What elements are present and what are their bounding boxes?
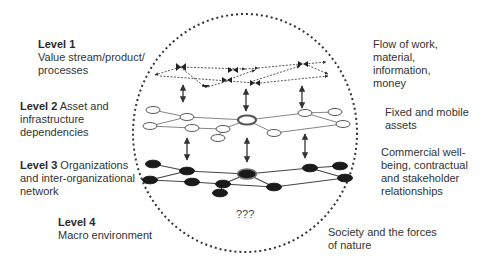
level-1-flow-network (155, 62, 328, 87)
level-2-3-connectors (187, 134, 305, 162)
level-3-nodes (143, 160, 353, 197)
level-1-nodes (176, 61, 308, 88)
network-diagram (0, 0, 482, 266)
level-1-2-connectors (183, 85, 302, 111)
level-2-nodes (143, 107, 350, 142)
boundary-circle (133, 14, 357, 252)
